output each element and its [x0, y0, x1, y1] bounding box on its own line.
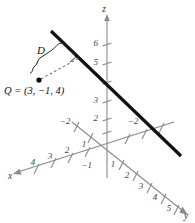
- figure-container: z x y 6 5 3 2 1 2 3 4 −2 1 2 3 4 5 −2 −1…: [0, 0, 195, 223]
- x-axis: [13, 122, 174, 175]
- target-line: [51, 31, 181, 156]
- z-tick-label-6: 6: [94, 38, 99, 48]
- x-tick-label-1: 1: [82, 139, 87, 149]
- x-tick-label-2: 2: [65, 145, 70, 155]
- y-tick-label-5: 5: [167, 203, 172, 213]
- x-tick-minus-3: [159, 123, 164, 133]
- z-tick-label-3: 3: [93, 95, 99, 105]
- y-tick-label-4: 4: [153, 192, 158, 202]
- origin-tick-label-minus-1: −1: [81, 160, 92, 170]
- y-tick-label-1: 1: [111, 159, 116, 169]
- y-tick-label-3: 3: [138, 181, 144, 191]
- x-tick-label-minus-2: −2: [128, 116, 139, 126]
- y-tick-5: [174, 205, 179, 215]
- x-tick-label-3: 3: [47, 151, 53, 161]
- x-axis-line: [18, 122, 174, 172]
- y-tick-label-minus-2: −2: [60, 116, 71, 126]
- y-axis-label: y: [183, 211, 189, 221]
- point-q-dot: [36, 77, 41, 82]
- z-tick-label-5: 5: [94, 57, 99, 67]
- x-axis-arrowhead: [13, 169, 22, 175]
- z-axis-arrowhead: [104, 14, 110, 21]
- z-axis-label: z: [101, 4, 106, 14]
- coordinate-figure: z x y 6 5 3 2 1 2 3 4 −2 1 2 3 4 5 −2 −1…: [0, 0, 195, 223]
- point-q-label: Q = (3, −1, 4): [4, 85, 65, 97]
- x-tick-minus-2: [142, 129, 147, 139]
- x-axis-label: x: [7, 171, 13, 181]
- y-tick-label-2: 2: [125, 170, 130, 180]
- perpendicular-distance-segment: [41, 58, 79, 79]
- x-tick-minus-1: [125, 134, 130, 144]
- distance-label: D: [36, 44, 45, 56]
- x-tick-label-4: 4: [31, 157, 36, 167]
- z-tick-label-2: 2: [94, 113, 99, 123]
- z-axis: [103, 14, 112, 178]
